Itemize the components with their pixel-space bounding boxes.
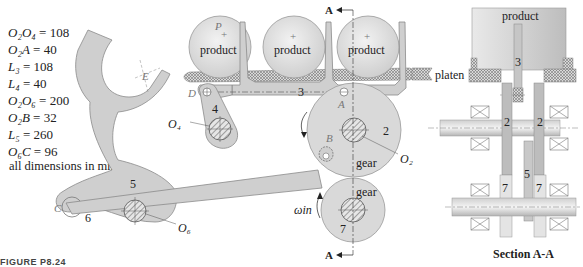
section-link-2-label: 2 xyxy=(537,115,543,129)
platen-label: platen xyxy=(435,68,464,82)
svg-text:+: + xyxy=(290,30,296,42)
section-link-7-label: 7 xyxy=(536,181,542,195)
pin-b xyxy=(323,153,329,159)
link-7-label: 7 xyxy=(340,222,346,236)
point-c-label: C xyxy=(54,202,62,214)
section-title: Section A-A xyxy=(493,247,554,261)
section-marker-top: A xyxy=(325,4,333,16)
product-2: + product xyxy=(263,16,325,78)
point-b-label: B xyxy=(326,132,333,144)
point-d-label: D xyxy=(187,87,196,99)
link-3-label: 3 xyxy=(298,85,304,99)
platen-left xyxy=(469,69,501,82)
point-e-label: E xyxy=(141,70,149,82)
gear-2-label: gear xyxy=(356,156,377,170)
section-link-3-label: 3 xyxy=(515,55,521,69)
section-link-2-label: 2 xyxy=(504,115,510,129)
gear-2: A 2 gear B O₂ xyxy=(301,83,413,177)
product-label: product xyxy=(274,43,311,57)
svg-text:+: + xyxy=(221,28,227,40)
link-2-label: 2 xyxy=(383,124,389,138)
omega-in-label: ωin xyxy=(294,203,312,217)
platen-right xyxy=(544,69,576,82)
section-gear-2-right xyxy=(534,83,544,175)
section-marker-bottom: A xyxy=(325,249,333,261)
product-label: product xyxy=(200,43,237,57)
pivot-o2-label: O₂ xyxy=(400,152,413,166)
product-3: + product xyxy=(337,16,399,78)
section-link-5-label: 5 xyxy=(524,167,530,181)
pivot-o6-label: O₆ xyxy=(178,221,191,235)
link-4-label: 4 xyxy=(212,102,218,116)
section-link-7-label: 7 xyxy=(502,181,508,195)
svg-text:+: + xyxy=(364,30,370,42)
pivot-o4-label: O₄ xyxy=(168,117,181,131)
point-a-label: A xyxy=(337,98,345,110)
section-view: product platen 3 2 2 5 xyxy=(412,8,580,261)
product-label: product xyxy=(348,43,385,57)
section-product-label: product xyxy=(502,9,539,23)
gear-7-label: gear xyxy=(356,185,377,199)
link-5-label: 5 xyxy=(130,177,136,191)
section-gear-2-left xyxy=(502,83,512,175)
link-6-label: 6 xyxy=(85,211,91,225)
